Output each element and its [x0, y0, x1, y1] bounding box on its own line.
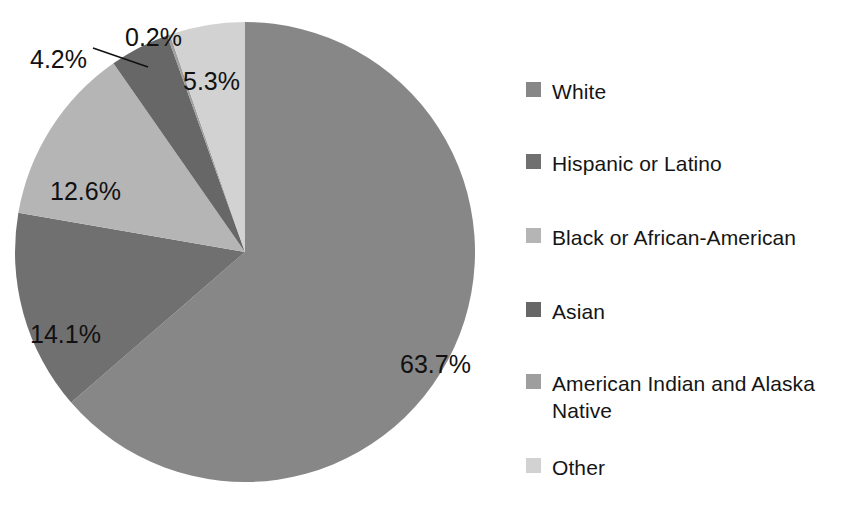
legend-swatch-icon: [526, 154, 541, 169]
legend-item-label: American Indian and Alaska Native: [552, 370, 815, 424]
legend-item[interactable]: American Indian and Alaska Native: [526, 370, 815, 424]
legend-swatch-icon: [526, 302, 541, 317]
legend-swatch-icon: [526, 82, 541, 97]
legend-item[interactable]: Other: [526, 454, 605, 481]
legend-item-label: Asian: [552, 298, 605, 325]
slice-value-label: 14.1%: [30, 320, 101, 348]
slice-value-label: 0.2%: [125, 23, 182, 51]
slice-value-label: 63.7%: [400, 350, 471, 378]
legend-swatch-icon: [526, 228, 541, 243]
legend-item-label: Hispanic or Latino: [552, 150, 722, 177]
legend-item[interactable]: Black or African-American: [526, 224, 796, 251]
legend-swatch-icon: [526, 458, 541, 473]
legend-item[interactable]: White: [526, 78, 606, 105]
pie-chart: 63.7%14.1%12.6%4.2%0.2%5.3% WhiteHispani…: [0, 0, 866, 512]
legend-item-label: Other: [552, 454, 605, 481]
slice-value-label: 12.6%: [50, 177, 121, 205]
slice-value-label: 4.2%: [30, 45, 87, 73]
legend-item[interactable]: Asian: [526, 298, 605, 325]
legend-swatch-icon: [526, 374, 541, 389]
legend-item-label: White: [552, 78, 606, 105]
slice-value-label: 5.3%: [183, 67, 240, 95]
legend-item-label: Black or African-American: [552, 224, 796, 251]
pie-graphic: 63.7%14.1%12.6%4.2%0.2%5.3%: [0, 0, 520, 512]
legend-item[interactable]: Hispanic or Latino: [526, 150, 722, 177]
pie-slices: [15, 22, 475, 482]
